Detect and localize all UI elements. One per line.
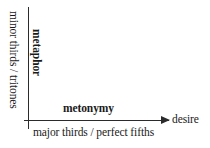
diagram-canvas: minor thirds / tritones metaphor metonym…: [0, 0, 210, 148]
x-axis-line: [24, 120, 169, 121]
y-axis-line: [28, 7, 29, 129]
x-axis-outer-label: major thirds / perfect fifths: [33, 127, 154, 139]
y-axis-outer-label: minor thirds / tritones: [8, 11, 20, 109]
x-axis-name-label: desire: [172, 114, 199, 126]
y-axis-inner-label-metaphor: metaphor: [31, 29, 43, 76]
x-axis-inner-label-metonymy: metonymy: [63, 103, 114, 115]
x-axis-arrow-icon: [161, 116, 170, 124]
